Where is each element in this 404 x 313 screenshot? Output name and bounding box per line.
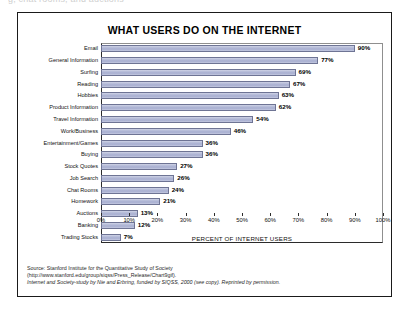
category-label: Email	[84, 46, 98, 52]
x-tick-mark	[242, 213, 243, 216]
category-label: Auctions	[77, 211, 98, 217]
x-tick-label: 10%	[123, 217, 135, 223]
category-label: Entertainment/Games	[44, 141, 98, 147]
bar	[101, 57, 318, 64]
x-tick-mark	[214, 213, 215, 216]
bar	[101, 116, 253, 123]
x-tick-mark	[270, 213, 271, 216]
bar	[101, 92, 279, 99]
category-axis: EmailGeneral InformationSurfingReadingHo…	[18, 43, 101, 243]
x-tick-mark	[101, 213, 102, 216]
bar	[101, 104, 276, 111]
x-tick-label: 100%	[376, 217, 391, 223]
chart-title: WHAT USERS DO ON THE INTERNET	[18, 24, 391, 36]
x-tick-label: 40%	[208, 217, 220, 223]
category-label: Reading	[77, 82, 98, 88]
x-tick-label: 60%	[264, 217, 276, 223]
category-label: Hobbies	[77, 93, 98, 99]
category-label: Banking	[78, 223, 98, 229]
x-tick-label: 90%	[349, 217, 361, 223]
bar	[101, 187, 169, 194]
bar	[101, 175, 174, 182]
category-label: Trading Stocks	[61, 235, 98, 241]
bar	[101, 69, 296, 76]
source-line-2: (http://www.stanford.edu/group/siqss/Pre…	[27, 272, 382, 279]
page-top-cut-text: g, chat rooms, and auctions	[8, 0, 308, 4]
x-tick-label: 50%	[236, 217, 248, 223]
x-tick-label: 20%	[152, 217, 164, 223]
figure-frame: WHAT USERS DO ON THE INTERNET EmailGener…	[17, 12, 392, 297]
category-label: Work/Business	[61, 129, 98, 135]
bar-value-label: 27%	[180, 162, 192, 169]
x-tick-mark	[129, 213, 130, 216]
x-tick-mark	[157, 213, 158, 216]
x-tick-mark	[186, 213, 187, 216]
bar	[101, 140, 203, 147]
bar	[101, 45, 355, 52]
x-tick-label: 30%	[180, 217, 192, 223]
category-label: Product Information	[49, 105, 98, 111]
x-tick-label: 80%	[321, 217, 333, 223]
x-axis-ticks: 0%10%20%30%40%50%60%70%80%90%100%	[101, 213, 383, 235]
bar-value-label: 62%	[279, 103, 291, 110]
bar-value-label: 63%	[282, 91, 294, 98]
source-line-3: Internet and Society-study by Nie and Er…	[27, 279, 382, 286]
category-label: General Information	[49, 58, 98, 64]
bar-value-label: 36%	[206, 150, 218, 157]
bar-value-label: 77%	[321, 56, 333, 63]
bar	[101, 128, 231, 135]
x-tick-mark	[383, 213, 384, 216]
category-label: Travel Information	[53, 117, 98, 123]
category-label: Job Search	[70, 176, 98, 182]
bar-value-label: 24%	[172, 186, 184, 193]
x-tick-mark	[327, 213, 328, 216]
category-label: Homework	[71, 199, 98, 205]
x-tick-mark	[355, 213, 356, 216]
x-axis-title: PERCENT OF INTERNET USERS	[101, 235, 383, 242]
source-line-1: Source: Stanford Institute for the Quant…	[27, 265, 382, 272]
bar-value-label: 26%	[177, 174, 189, 181]
source-line-3-text: Internet and Society-study by Nie and Er…	[27, 279, 280, 285]
bar	[101, 81, 290, 88]
bar	[101, 163, 177, 170]
category-label: Chat Rooms	[67, 188, 98, 194]
x-tick-label: 0%	[97, 217, 105, 223]
bar-value-label: 67%	[293, 80, 305, 87]
bar	[101, 198, 160, 205]
bar-value-label: 46%	[234, 127, 246, 134]
category-label: Stock Quotes	[64, 164, 98, 170]
bar-value-label: 36%	[206, 139, 218, 146]
bar-value-label: 90%	[358, 44, 370, 51]
category-label: Surfing	[80, 70, 98, 76]
x-tick-label: 70%	[293, 217, 305, 223]
source-note: Source: Stanford Institute for the Quant…	[27, 265, 382, 286]
x-tick-mark	[298, 213, 299, 216]
bar-value-label: 69%	[299, 68, 311, 75]
bar	[101, 151, 203, 158]
bar-value-label: 21%	[163, 197, 175, 204]
category-label: Buying	[81, 152, 98, 158]
bar-value-label: 54%	[256, 115, 268, 122]
